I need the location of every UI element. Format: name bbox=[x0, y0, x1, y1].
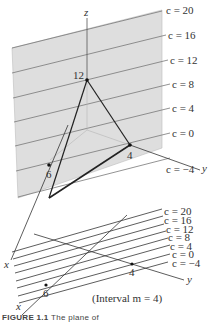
x-intercept-label: 6 bbox=[46, 168, 52, 180]
level-label-c12: c = 12 bbox=[170, 54, 198, 66]
y-intercept-point bbox=[128, 143, 132, 147]
level-label-c8: c = 8 bbox=[172, 78, 195, 90]
z-intercept-point bbox=[85, 78, 89, 82]
y-intercept-label-2d: 4 bbox=[129, 266, 135, 278]
level-label-c4: c = 4 bbox=[172, 102, 195, 114]
bottom-panel-2d: x y 4 6 c = 20 c = 16 c = 12 c = 8 c = 4… bbox=[12, 205, 201, 315]
z-axis-label: z bbox=[83, 6, 89, 18]
level-label-cm4: c = −4 bbox=[166, 163, 195, 175]
figure-caption: FIGURE 1.1 The plane of bbox=[2, 313, 99, 322]
bottom-level-lines bbox=[12, 209, 170, 303]
level-label-c0: c = 0 bbox=[172, 127, 195, 139]
level-label-c16: c = 16 bbox=[168, 29, 196, 41]
y-axis-2d bbox=[34, 234, 184, 280]
figure-number: FIGURE 1.1 bbox=[2, 313, 49, 322]
y-axis-label: y bbox=[201, 162, 207, 174]
figure-canvas: z x y 12 4 6 c = 20 c = 16 c = 12 c = 8 … bbox=[0, 0, 210, 325]
y-axis-label-2d: y bbox=[186, 273, 192, 285]
figure-caption-text: The plane of bbox=[51, 313, 99, 322]
z-intercept-label: 12 bbox=[73, 69, 84, 81]
bottom-level-labels: c = 20 c = 16 c = 12 c = 8 c = 4 c = 0 c… bbox=[164, 205, 201, 269]
x-intercept-label-2d: 6 bbox=[43, 287, 49, 299]
interval-note: (Interval m = 4) bbox=[92, 292, 162, 305]
level-label-2d-cm4: c = −4 bbox=[172, 257, 201, 269]
top-level-labels: c = 20 c = 16 c = 12 c = 8 c = 4 c = 0 c… bbox=[166, 4, 198, 175]
x-intercept-point bbox=[47, 163, 51, 167]
x-axis-label-2d: x bbox=[15, 300, 21, 312]
x-axis-label: x bbox=[3, 258, 9, 270]
level-label-c20: c = 20 bbox=[166, 4, 194, 16]
y-intercept-label: 4 bbox=[127, 149, 133, 161]
